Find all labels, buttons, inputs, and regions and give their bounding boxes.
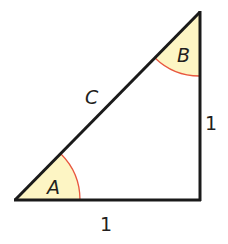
angle-b-label: B bbox=[177, 44, 190, 66]
horizontal-side-label: 1 bbox=[100, 213, 112, 235]
hypotenuse-line bbox=[15, 12, 200, 200]
vertical-side-label: 1 bbox=[205, 112, 217, 134]
angle-a-label: A bbox=[45, 176, 60, 198]
hypotenuse-label: C bbox=[85, 86, 99, 108]
right-triangle-diagram: A B C 1 1 bbox=[0, 0, 228, 244]
